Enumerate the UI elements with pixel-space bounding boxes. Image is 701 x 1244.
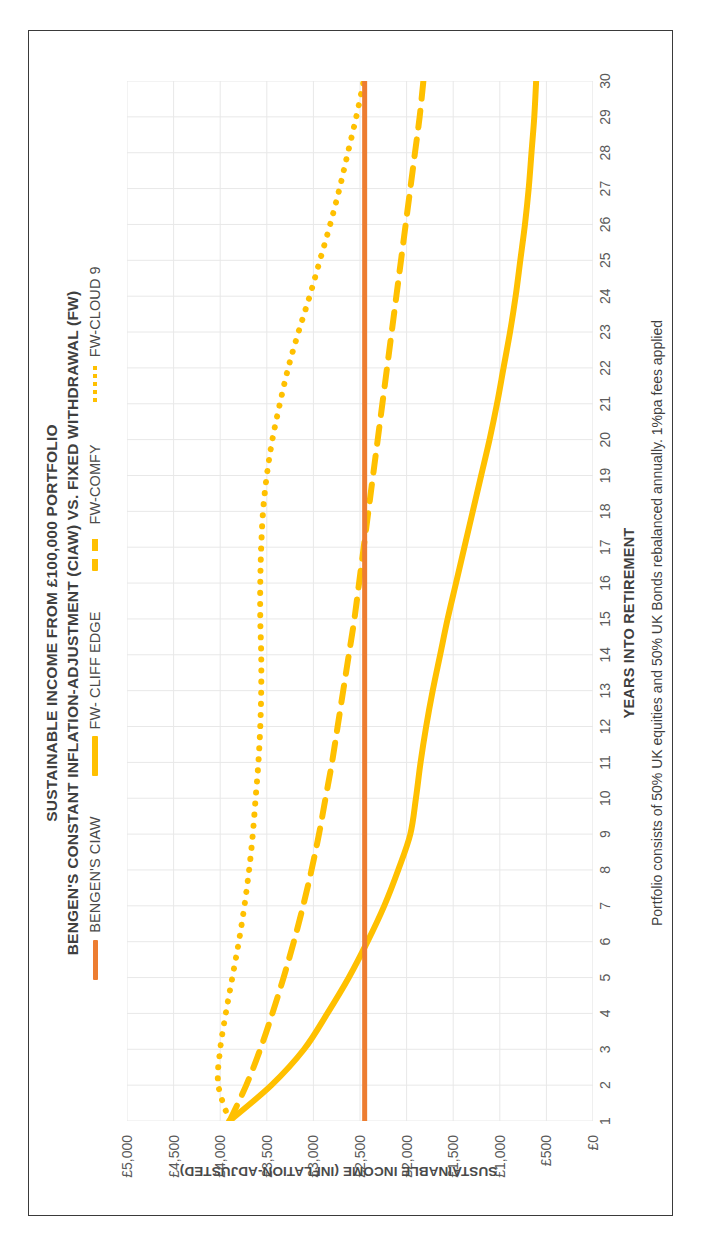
y-axis-title: SUSTAINABLE INCOME (INFLATION-ADJUSTED) bbox=[128, 1164, 548, 1179]
chart-title-line-2: BENGEN'S CONSTANT INFLATION-ADJUSTMENT (… bbox=[62, 33, 83, 1213]
x-axis-tick-label: 29 bbox=[597, 109, 613, 125]
x-axis-tick-label: 2 bbox=[597, 1081, 613, 1089]
x-axis-tick-label: 26 bbox=[597, 217, 613, 233]
dotted-yellow-line-icon bbox=[92, 364, 98, 404]
x-axis-tick-label: 28 bbox=[597, 145, 613, 161]
x-axis-tick-label: 16 bbox=[597, 575, 613, 591]
rotated-figure-container: SUSTAINABLE INCOME FROM £100,000 PORTFOL… bbox=[31, 33, 671, 1213]
x-axis-tick-label: 3 bbox=[597, 1045, 613, 1053]
legend-item-label: FW-CLOUD 9 bbox=[87, 266, 103, 357]
x-axis-tick-label: 5 bbox=[597, 974, 613, 982]
x-axis-tick-label: 1 bbox=[597, 1117, 613, 1125]
x-axis-tick-label: 17 bbox=[597, 539, 613, 555]
x-axis-tick-label: 18 bbox=[597, 504, 613, 520]
x-axis-tick-label: 20 bbox=[597, 432, 613, 448]
x-axis-tick-label: 4 bbox=[597, 1010, 613, 1018]
legend-item: FW-CLOUD 9 bbox=[87, 266, 103, 404]
y-axis-tick-label: £0 bbox=[585, 1135, 601, 1151]
x-axis-tick-label: 30 bbox=[597, 73, 613, 89]
chart-title-line-1: SUSTAINABLE INCOME FROM £100,000 PORTFOL… bbox=[41, 33, 62, 1213]
x-axis-tick-label: 14 bbox=[597, 647, 613, 663]
x-axis-tick-label: 25 bbox=[597, 253, 613, 269]
chart-footnote: Portfolio consists of 50% UK equities an… bbox=[649, 33, 665, 1213]
x-axis-tick-label: 15 bbox=[597, 611, 613, 627]
chart-title: SUSTAINABLE INCOME FROM £100,000 PORTFOL… bbox=[41, 33, 83, 1213]
legend-item: FW- CLIFF EDGE bbox=[87, 611, 103, 776]
chart-legend: BENGEN'S CIAWFW- CLIFF EDGEFW-COMFYFW-CL… bbox=[87, 33, 103, 1213]
legend-item-label: FW-COMFY bbox=[87, 444, 103, 524]
x-axis-tick-label: 13 bbox=[597, 683, 613, 699]
y-axis-tick-label: £500 bbox=[538, 1135, 554, 1166]
x-axis-tick-label: 9 bbox=[597, 830, 613, 838]
chart-figure: SUSTAINABLE INCOME FROM £100,000 PORTFOL… bbox=[31, 33, 671, 1213]
series-line bbox=[217, 81, 363, 1121]
legend-item-label: FW- CLIFF EDGE bbox=[87, 611, 103, 729]
x-axis-tick-label: 8 bbox=[597, 866, 613, 874]
x-axis-tick-label: 7 bbox=[597, 902, 613, 910]
x-axis-tick-label: 23 bbox=[597, 324, 613, 340]
x-axis-title: YEARS INTO RETIREMENT bbox=[621, 33, 637, 1213]
plot-area bbox=[127, 81, 593, 1121]
dashed-yellow-line-icon bbox=[92, 531, 98, 571]
x-axis-tick-label: 22 bbox=[597, 360, 613, 376]
legend-item: BENGEN'S CIAW bbox=[87, 816, 103, 979]
x-axis-tick-labels: 1234567891011121314151617181920212223242… bbox=[597, 81, 619, 1121]
x-axis-tick-label: 6 bbox=[597, 938, 613, 946]
legend-item: FW-COMFY bbox=[87, 444, 103, 571]
chart-svg bbox=[127, 81, 593, 1121]
x-axis-tick-label: 11 bbox=[597, 755, 613, 770]
x-axis-tick-label: 27 bbox=[597, 181, 613, 197]
solid-yellow-line-icon bbox=[92, 736, 98, 776]
x-axis-tick-label: 24 bbox=[597, 288, 613, 304]
series-line bbox=[229, 81, 536, 1121]
chart-page: SUSTAINABLE INCOME FROM £100,000 PORTFOL… bbox=[0, 0, 701, 1244]
solid-orange-line-icon bbox=[92, 940, 97, 980]
x-axis-tick-label: 12 bbox=[597, 719, 613, 735]
x-axis-tick-label: 19 bbox=[597, 468, 613, 484]
x-axis-tick-label: 21 bbox=[597, 396, 613, 412]
figure-frame: SUSTAINABLE INCOME FROM £100,000 PORTFOL… bbox=[28, 30, 673, 1216]
x-axis-tick-label: 10 bbox=[597, 790, 613, 806]
legend-item-label: BENGEN'S CIAW bbox=[87, 816, 103, 932]
